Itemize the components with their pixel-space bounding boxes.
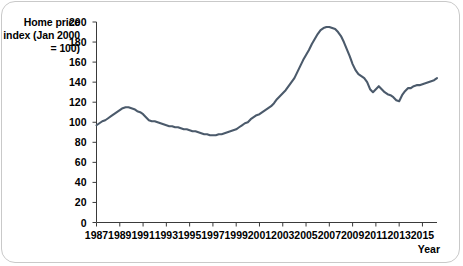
y-tick-label: 80 <box>57 137 87 147</box>
axes <box>93 22 438 227</box>
x-tick-label: 2015 <box>405 230 439 240</box>
y-tick-label: 60 <box>57 157 87 167</box>
x-tick-marks <box>97 223 423 227</box>
y-tick-label: 0 <box>57 218 87 228</box>
y-tick-label: 200 <box>57 17 87 27</box>
chart-figure: Home price index (Jan 2000 = 100) Year 0… <box>0 0 463 266</box>
y-tick-label: 160 <box>57 57 87 67</box>
y-tick-label: 40 <box>57 177 87 187</box>
y-tick-label: 20 <box>57 197 87 207</box>
y-tick-marks <box>93 22 97 223</box>
home-price-index-line <box>97 27 438 135</box>
y-tick-label: 140 <box>57 77 87 87</box>
y-tick-label: 120 <box>57 97 87 107</box>
y-tick-label: 180 <box>57 37 87 47</box>
y-tick-label: 100 <box>57 117 87 127</box>
